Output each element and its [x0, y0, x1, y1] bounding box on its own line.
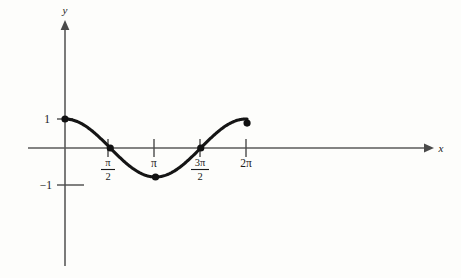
data-point-minimum [152, 173, 159, 180]
y-axis: y [61, 4, 70, 266]
x-axis: x [28, 142, 444, 154]
x-tick-label-pi-over-2: π 2 [101, 157, 115, 182]
pi-over-2-denominator: 2 [105, 171, 110, 182]
data-point-zero-descending [107, 144, 114, 151]
x-tick-label-three-pi-over-2: 3π 2 [191, 157, 209, 182]
pi-over-2-numerator: π [105, 157, 111, 168]
data-point-zero-ascending [197, 144, 204, 151]
y-tick-label-neg-1: −1 [40, 179, 52, 191]
cosine-graph-figure: x y 1 −1 π 2 π [0, 0, 461, 278]
y-axis-ticks: 1 −1 [40, 113, 84, 191]
y-axis-arrow-icon [61, 20, 70, 30]
x-tick-label-pi: π [151, 157, 157, 169]
y-axis-label: y [62, 4, 68, 16]
three-pi-over-2-numerator: 3π [195, 157, 206, 168]
three-pi-over-2-denominator: 2 [197, 171, 202, 182]
data-point-start [61, 115, 68, 122]
x-axis-label: x [438, 142, 444, 154]
y-tick-label-1: 1 [44, 113, 50, 125]
data-point-end [243, 119, 250, 126]
x-tick-label-two-pi: 2π [240, 157, 252, 169]
plot-canvas: x y 1 −1 π 2 π [0, 0, 461, 278]
x-axis-arrow-icon [424, 144, 434, 153]
